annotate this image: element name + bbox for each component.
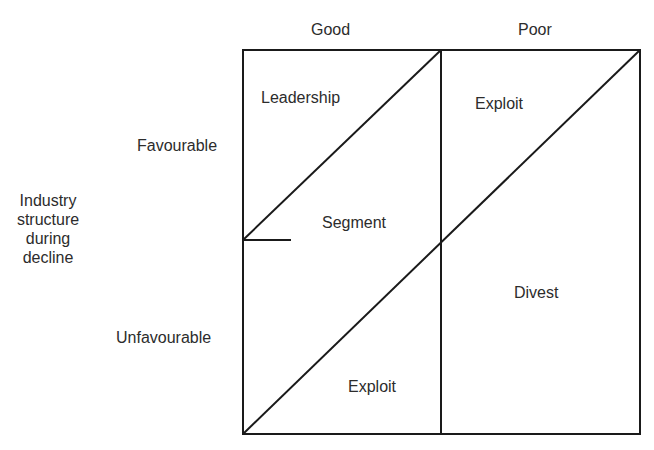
row-axis-title-line: during — [0, 229, 96, 248]
region-label-exploit-bottom: Exploit — [348, 378, 396, 396]
row-axis-title: Industry structure during decline — [0, 191, 96, 267]
row-axis-title-line: Industry — [0, 191, 96, 210]
region-label-exploit-top: Exploit — [475, 95, 523, 113]
row-label-unfavourable: Unfavourable — [116, 329, 211, 347]
diagonal-leadership-boundary — [243, 50, 441, 240]
region-label-leadership: Leadership — [261, 89, 340, 107]
region-label-segment: Segment — [322, 214, 386, 232]
column-label-poor: Poor — [518, 21, 552, 39]
region-label-divest: Divest — [514, 284, 558, 302]
row-axis-title-line: decline — [0, 248, 96, 267]
column-label-good: Good — [311, 21, 350, 39]
row-axis-title-line: structure — [0, 210, 96, 229]
row-label-favourable: Favourable — [137, 137, 217, 155]
